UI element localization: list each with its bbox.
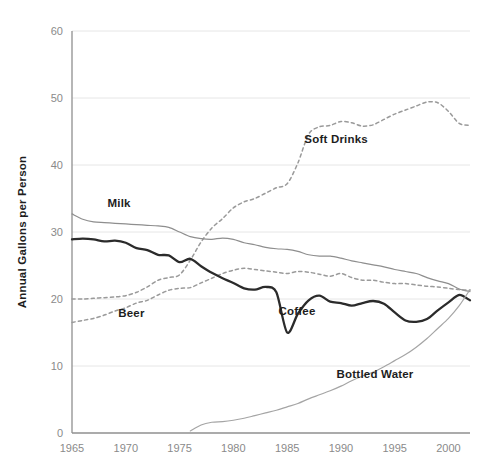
y-tick-label: 30 — [51, 226, 63, 238]
y-axis-title: Annual Gallons per Person — [16, 156, 28, 309]
data-series — [72, 102, 470, 431]
x-tick-label: 1980 — [221, 442, 245, 454]
series-line-milk — [72, 214, 470, 292]
x-tick-label: 1995 — [382, 442, 406, 454]
x-tick-label: 1970 — [114, 442, 138, 454]
series-line-soft-drinks — [72, 102, 470, 299]
series-line-bottled-water — [190, 290, 470, 431]
x-tick-label: 1990 — [329, 442, 353, 454]
series-label-coffee: Coffee — [279, 305, 316, 317]
x-tick-label: 1985 — [275, 442, 299, 454]
x-tick-label: 1965 — [60, 442, 84, 454]
series-label-beer: Beer — [118, 307, 145, 319]
series-label-soft-drinks: Soft Drinks — [304, 133, 368, 145]
y-tick-label: 50 — [51, 92, 63, 104]
y-tick-label: 60 — [51, 25, 63, 37]
x-axis-ticks: 19651970197519801985199019952000 — [60, 442, 461, 454]
y-tick-label: 20 — [51, 293, 63, 305]
x-tick-label: 1975 — [167, 442, 191, 454]
y-axis-ticks: 0102030405060 — [51, 25, 63, 439]
series-labels: Soft DrinksMilkBeerCoffeeBottled Water — [107, 133, 413, 380]
beverage-consumption-line-chart: 0102030405060 19651970197519801985199019… — [0, 0, 489, 476]
series-label-bottled-water: Bottled Water — [337, 368, 414, 380]
x-tick-label: 2000 — [436, 442, 460, 454]
y-tick-label: 10 — [51, 360, 63, 372]
chart-page: 0102030405060 19651970197519801985199019… — [0, 0, 489, 476]
series-label-milk: Milk — [107, 197, 131, 209]
y-tick-label: 40 — [51, 159, 63, 171]
y-tick-label: 0 — [57, 427, 63, 439]
